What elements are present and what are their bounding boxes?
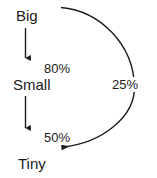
node-label-tiny: Tiny — [18, 156, 46, 171]
node-label-big: Big — [16, 8, 38, 23]
edge-label-big-to-small: 80% — [43, 61, 71, 76]
edge-label-small-to-tiny: 50% — [43, 130, 71, 145]
node-label-small: Small — [13, 77, 51, 92]
edge-label-big-to-tiny: 25% — [111, 77, 139, 92]
flow-diagram: Big Small Tiny 80% 50% 25% — [0, 0, 157, 178]
